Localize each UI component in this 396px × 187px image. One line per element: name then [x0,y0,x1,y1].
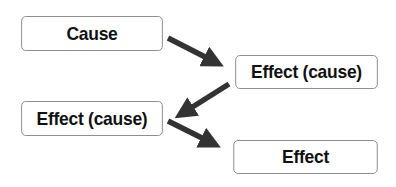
effect-cause-node-2: Effect (cause) [21,101,163,136]
arrow-effect2-to-effect3 [168,121,212,143]
effect-cause-node-2-label: Effect (cause) [37,108,148,130]
cause-effect-diagram: Cause Effect (cause) Effect (cause) Effe… [0,0,396,187]
cause-node-label: Cause [66,23,117,45]
cause-node: Cause [21,16,163,51]
effect-cause-node-1: Effect (cause) [235,55,378,89]
effect-cause-node-1-label: Effect (cause) [251,61,362,83]
effect-node-label: Effect [282,146,329,168]
arrow-effect1-to-effect2 [183,84,229,113]
arrow-cause-to-effect1 [168,38,215,62]
effect-node: Effect [233,140,377,174]
